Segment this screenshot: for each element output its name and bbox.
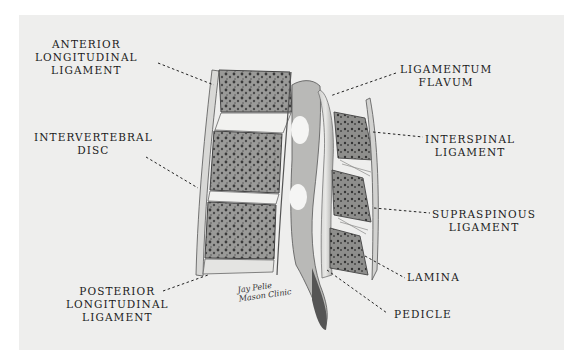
label-anterior-longitudinal-ligament: ANTERIOR LONGITUDINAL LIGAMENT [35, 38, 138, 77]
label-lamina: LAMINA [407, 271, 460, 284]
label-interspinal-ligament: INTERSPINAL LIGAMENT [425, 133, 515, 159]
supraspinous-ligament-shape [366, 98, 378, 280]
label-ligamentum-flavum: LIGAMENTUM FLAVUM [400, 63, 492, 89]
label-supraspinous-ligament: SUPRASPINOUS LIGAMENT [432, 208, 536, 234]
label-intervertebral-disc: INTERVERTEBRAL DISC [34, 131, 153, 157]
label-pedicle: PEDICLE [394, 308, 452, 321]
laminae [330, 112, 374, 275]
label-posterior-longitudinal-ligament: POSTERIOR LONGITUDINAL LIGAMENT [66, 285, 169, 324]
pedicle-region [289, 81, 327, 330]
